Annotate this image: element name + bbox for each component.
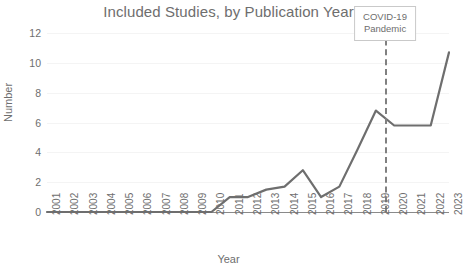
x-axis-tick-label: 2010 — [215, 193, 226, 215]
y-axis-tick-label: 10 — [29, 57, 41, 69]
x-axis-tick-label: 2017 — [343, 193, 354, 215]
covid-marker-line — [385, 20, 387, 212]
y-axis-tick-label: 6 — [35, 117, 41, 129]
x-axis-tick-label: 2019 — [380, 193, 391, 215]
y-axis-tick-label: 8 — [35, 87, 41, 99]
x-axis-tick-label: 2021 — [416, 193, 427, 215]
x-axis-tick-label: 2022 — [435, 193, 446, 215]
x-axis-tick-label: 2007 — [161, 193, 172, 215]
x-axis-tick-label: 2005 — [124, 193, 135, 215]
x-axis-tick-label: 2018 — [362, 193, 373, 215]
y-axis-tick-label: 2 — [35, 176, 41, 188]
x-axis-tick-label: 2020 — [398, 193, 409, 215]
plot-area: 024681012 — [47, 33, 449, 212]
y-axis-tick-label: 12 — [29, 27, 41, 39]
x-axis-tick-label: 2013 — [270, 193, 281, 215]
x-axis-tick-label: 2016 — [325, 193, 336, 215]
x-axis-tick-label: 2006 — [142, 193, 153, 215]
x-axis-tick-label: 2009 — [197, 193, 208, 215]
x-axis-title: Year — [0, 253, 457, 265]
covid-annotation-line2: Pandemic — [363, 23, 407, 35]
x-axis-tick-label: 2002 — [69, 193, 80, 215]
x-axis-tick-label: 2012 — [252, 193, 263, 215]
x-axis-tick-label: 2011 — [234, 193, 245, 215]
covid-annotation-line1: COVID-19 — [363, 11, 407, 23]
data-series-line — [47, 33, 449, 212]
y-axis-tick-label: 0 — [35, 206, 41, 218]
x-axis-tick-label: 2008 — [179, 193, 190, 215]
y-axis-title: Number — [2, 83, 14, 122]
x-axis-tick-label: 2003 — [88, 193, 99, 215]
y-axis-tick-label: 4 — [35, 146, 41, 158]
x-axis-tick-label: 2023 — [453, 193, 464, 215]
x-axis-tick-label: 2001 — [51, 193, 62, 215]
x-axis-tick-label: 2004 — [106, 193, 117, 215]
covid-annotation-box: COVID-19 Pandemic — [354, 6, 416, 41]
x-axis-tick-label: 2015 — [307, 193, 318, 215]
x-axis-tick-label: 2014 — [289, 193, 300, 215]
